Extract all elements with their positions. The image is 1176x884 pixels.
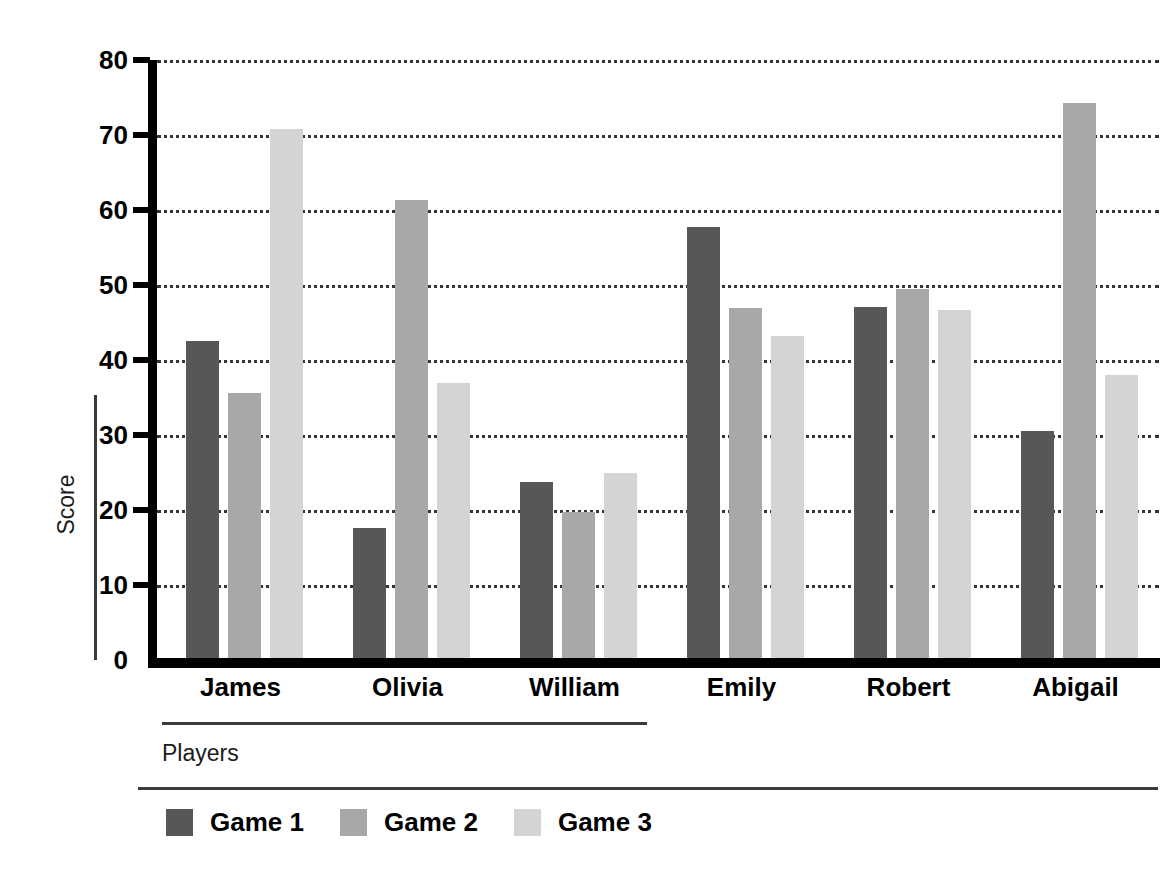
x-axis-tick-labels: JamesOliviaWilliamEmilyRobertAbigail bbox=[157, 672, 1159, 712]
bar[interactable] bbox=[520, 482, 553, 660]
bar[interactable] bbox=[938, 310, 971, 660]
legend-swatch-icon bbox=[166, 809, 193, 836]
x-axis-baseline bbox=[148, 658, 1160, 668]
x-axis-tick-label: Abigail bbox=[992, 672, 1159, 703]
bar[interactable] bbox=[1063, 103, 1096, 660]
bar-group bbox=[353, 60, 470, 660]
bar[interactable] bbox=[854, 307, 887, 660]
legend-item[interactable]: Game 3 bbox=[514, 807, 652, 838]
x-axis-tick-label: William bbox=[491, 672, 658, 703]
bar[interactable] bbox=[896, 289, 929, 660]
y-axis-tick-label: 10 bbox=[68, 572, 128, 598]
bar[interactable] bbox=[437, 383, 470, 660]
y-axis-tick-label: 50 bbox=[68, 272, 128, 298]
y-axis-tick-label: 20 bbox=[68, 497, 128, 523]
legend-item[interactable]: Game 1 bbox=[166, 807, 304, 838]
y-axis-tick-label: 40 bbox=[68, 347, 128, 373]
bar[interactable] bbox=[562, 512, 595, 660]
x-axis-tick-label: James bbox=[157, 672, 324, 703]
y-axis-spine bbox=[148, 60, 157, 660]
bar[interactable] bbox=[604, 473, 637, 660]
bars-layer bbox=[157, 60, 1159, 660]
bar-group bbox=[520, 60, 637, 660]
legend-separator-rule bbox=[138, 787, 1158, 790]
bar[interactable] bbox=[228, 393, 261, 660]
bar[interactable] bbox=[1105, 375, 1138, 660]
bar-group bbox=[854, 60, 971, 660]
bar[interactable] bbox=[270, 129, 303, 660]
y-axis-tick-label: 30 bbox=[68, 422, 128, 448]
bar-chart-figure: Score 01020304050607080 JamesOliviaWilli… bbox=[0, 0, 1176, 884]
legend-label: Game 3 bbox=[558, 807, 652, 838]
x-axis-title-rule bbox=[162, 722, 647, 725]
legend-label: Game 2 bbox=[384, 807, 478, 838]
bar[interactable] bbox=[395, 200, 428, 661]
x-axis-tick-label: Emily bbox=[658, 672, 825, 703]
bar[interactable] bbox=[771, 336, 804, 660]
bar[interactable] bbox=[729, 308, 762, 661]
legend-swatch-icon bbox=[514, 809, 541, 836]
bar-group bbox=[186, 60, 303, 660]
bar-group bbox=[1021, 60, 1138, 660]
y-axis-tick-label: 60 bbox=[68, 197, 128, 223]
bar[interactable] bbox=[353, 528, 386, 660]
y-axis-tick-labels: 01020304050607080 bbox=[0, 0, 128, 884]
y-axis-tick-label: 0 bbox=[68, 647, 128, 673]
chart-legend: Game 1Game 2Game 3 bbox=[166, 806, 688, 838]
x-axis-tick-label: Robert bbox=[825, 672, 992, 703]
x-axis-title: Players bbox=[162, 740, 239, 767]
x-axis-tick-label: Olivia bbox=[324, 672, 491, 703]
legend-label: Game 1 bbox=[210, 807, 304, 838]
legend-swatch-icon bbox=[340, 809, 367, 836]
legend-item[interactable]: Game 2 bbox=[340, 807, 478, 838]
y-axis-tick-label: 70 bbox=[68, 122, 128, 148]
bar-group bbox=[687, 60, 804, 660]
y-axis-tick-label: 80 bbox=[68, 47, 128, 73]
bar[interactable] bbox=[1021, 431, 1054, 660]
bar[interactable] bbox=[687, 227, 720, 661]
bar[interactable] bbox=[186, 341, 219, 661]
